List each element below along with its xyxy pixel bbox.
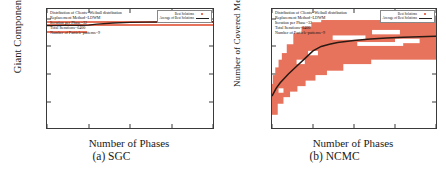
point-marker-icon bbox=[419, 12, 432, 16]
annotation-block-sgc: Distribution of Clients=Weibull distribu… bbox=[50, 11, 162, 36]
panel-sgc: Giant Component[%] 100 75 50 25 0 50 100 bbox=[0, 0, 223, 170]
caption-ncmc: (b) NCMC bbox=[223, 150, 446, 162]
legend-label: Average of Best Solutions bbox=[160, 17, 194, 20]
annotation-block-ncmc: Distribution of Clients=Weibull distribu… bbox=[275, 11, 387, 36]
legend-item-average: Average of Best Solutions bbox=[383, 17, 432, 22]
legend-ncmc: Best Solutions Average of Best Solutions bbox=[380, 10, 435, 23]
x-axis-label-ncmc: Number of Phases bbox=[271, 137, 435, 149]
annotation-line: Number of Particle-patterns=9 bbox=[275, 31, 387, 36]
point-marker-icon bbox=[196, 12, 209, 16]
line-marker-icon bbox=[419, 17, 432, 21]
legend-item-average: Average of Best Solutions bbox=[160, 17, 209, 22]
legend-label: Average of Best Solutions bbox=[383, 17, 417, 20]
x-axis-label-sgc: Number of Phases bbox=[46, 137, 212, 149]
legend-sgc: Best Solutions Average of Best Solutions bbox=[157, 10, 212, 23]
y-axis-label-ncmc: Number of Covered Mesh Clients[%] bbox=[232, 0, 246, 87]
annotation-line: Number of Particle-patterns=9 bbox=[50, 31, 162, 36]
caption-sgc: (a) SGC bbox=[0, 150, 223, 162]
line-marker-icon bbox=[196, 17, 209, 21]
y-axis-label-sgc: Giant Component[%] bbox=[12, 0, 26, 87]
plot-area-sgc: 100 75 50 25 0 50 100 150 200 bbox=[46, 8, 214, 129]
plot-area-ncmc: 100 75 50 25 0 50 100 150 200 bbox=[271, 8, 437, 129]
figure-container: Giant Component[%] 100 75 50 25 0 50 100 bbox=[0, 0, 446, 170]
panel-ncmc: Number of Covered Mesh Clients[%] 100 75… bbox=[223, 0, 446, 170]
